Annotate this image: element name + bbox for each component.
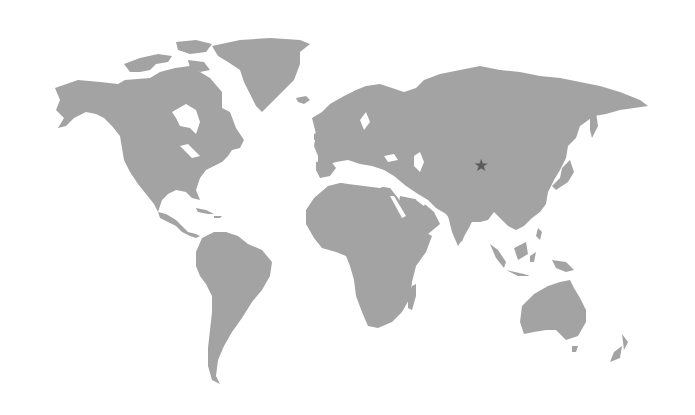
caribbean xyxy=(196,208,222,218)
south-america xyxy=(196,232,272,384)
iceland xyxy=(296,96,310,104)
australia xyxy=(520,280,586,340)
indonesia xyxy=(490,228,574,276)
world-map: ★ xyxy=(0,0,695,415)
india xyxy=(446,206,474,246)
landmasses xyxy=(55,38,648,384)
location-star-icon: ★ xyxy=(473,155,488,175)
new-zealand xyxy=(610,334,628,362)
world-map-svg: ★ xyxy=(0,0,695,415)
greenland xyxy=(212,38,310,112)
north-america xyxy=(55,66,244,212)
canadian-arctic xyxy=(124,40,212,72)
tasmania xyxy=(572,346,578,352)
central-america xyxy=(158,212,200,238)
